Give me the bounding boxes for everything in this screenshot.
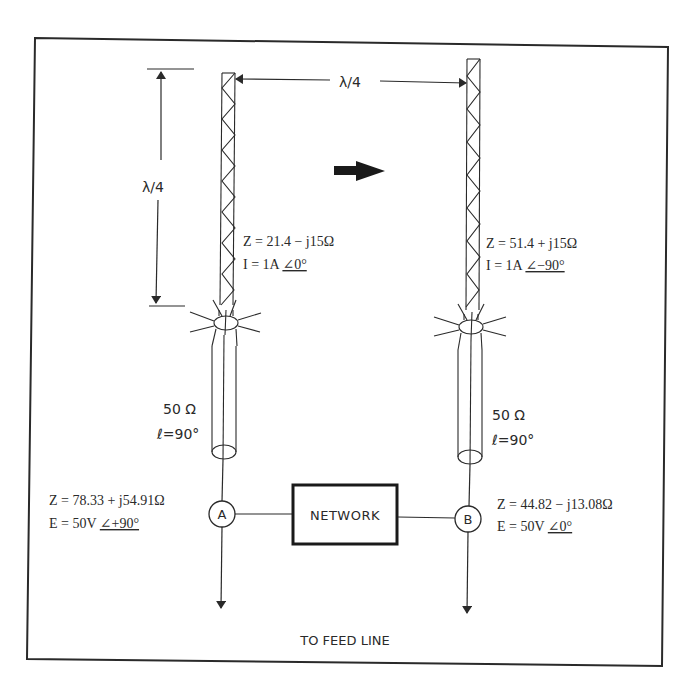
height-label: λ/4 (142, 179, 164, 195)
right-tower-current: I = 1A ∠−90° (486, 258, 565, 273)
node-a-label: A (218, 507, 227, 522)
network-label: NETWORK (310, 508, 380, 523)
right-line-impedance: 50 Ω (492, 407, 525, 423)
left-coax-line (212, 335, 236, 460)
left-tower (220, 73, 235, 305)
left-tower-impedance: Z = 21.4 − j15Ω (243, 234, 334, 249)
phasing-diagram: λ/4 λ/4 50 Ω ℓ=90° Z = 21.4 − j15 (0, 0, 673, 681)
right-tower-impedance: Z = 51.4 + j15Ω (486, 236, 577, 251)
left-line-impedance: 50 Ω (163, 401, 196, 417)
left-tower-base (190, 300, 261, 346)
right-line-length: ℓ=90° (491, 432, 534, 448)
feed-line-label: TO FEED LINE (299, 633, 389, 648)
node-b-impedance: Z = 44.82 − j13.08Ω (497, 497, 613, 512)
right-coax-line (458, 340, 482, 465)
right-tower-base (434, 304, 506, 350)
node-b-voltage: E = 50V ∠0° (497, 519, 572, 534)
node-b-wiring (398, 465, 470, 613)
node-a-wiring (221, 460, 293, 608)
right-arrow-icon (334, 161, 385, 181)
node-b-label: B (464, 512, 473, 527)
spacing-label: λ/4 (339, 74, 361, 90)
diagram-frame (27, 38, 668, 666)
node-a-voltage: E = 50V ∠+90° (49, 516, 139, 531)
left-tower-current: I = 1A ∠0° (243, 257, 307, 272)
left-line-length: ℓ=90° (156, 426, 199, 442)
node-a-impedance: Z = 78.33 + j54.91Ω (49, 493, 165, 508)
right-tower (466, 59, 480, 310)
